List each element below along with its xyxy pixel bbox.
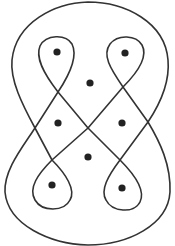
closed-curve [5,2,170,245]
region-dot-lower-center [84,153,91,160]
region-dot-upper-center [86,79,93,86]
region-dot-bottom-right [118,184,125,191]
region-dot-mid-left [54,119,61,126]
region-dot-mid-right [118,119,125,126]
region-dot-top-left [53,48,60,55]
region-dot-top-right [121,49,128,56]
knot-diagram [0,0,175,246]
region-dot-bottom-left [48,181,55,188]
